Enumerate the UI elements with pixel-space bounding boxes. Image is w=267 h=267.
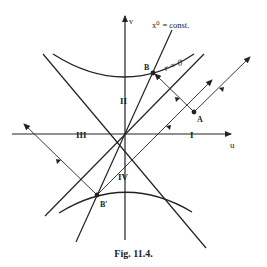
figure-caption: Fig. 11.4.: [0, 248, 267, 259]
r-zero-label: r = 0: [163, 57, 184, 73]
point-Bprime: [95, 193, 100, 198]
point-A: [192, 110, 197, 115]
penrose-like-diagram: v u x⁰ = const. r = 0 B A B′ I II III IV: [0, 0, 267, 267]
u-axis-label: u: [230, 140, 235, 150]
region-III-label: III: [76, 130, 87, 140]
x0-const-line: [76, 30, 172, 242]
ray-A-to-B: [155, 74, 194, 112]
ray-arrow-icon: [219, 87, 224, 92]
v-axis-label: v: [129, 17, 133, 26]
ray-Bprime-outgoing: [97, 80, 212, 195]
x0-const-label: x⁰ = const.: [152, 20, 189, 30]
ray-A-outgoing: [194, 57, 250, 112]
point-A-label: A: [197, 115, 203, 124]
point-B-label: B: [144, 63, 150, 72]
region-I-label: I: [190, 130, 194, 140]
point-Bprime-label: B′: [100, 200, 108, 209]
region-IV-label: IV: [118, 172, 129, 182]
region-II-label: II: [120, 96, 128, 106]
point-B: [151, 71, 156, 76]
